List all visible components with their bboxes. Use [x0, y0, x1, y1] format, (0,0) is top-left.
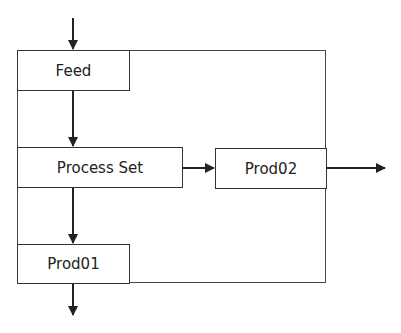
edges-layer [0, 0, 401, 333]
